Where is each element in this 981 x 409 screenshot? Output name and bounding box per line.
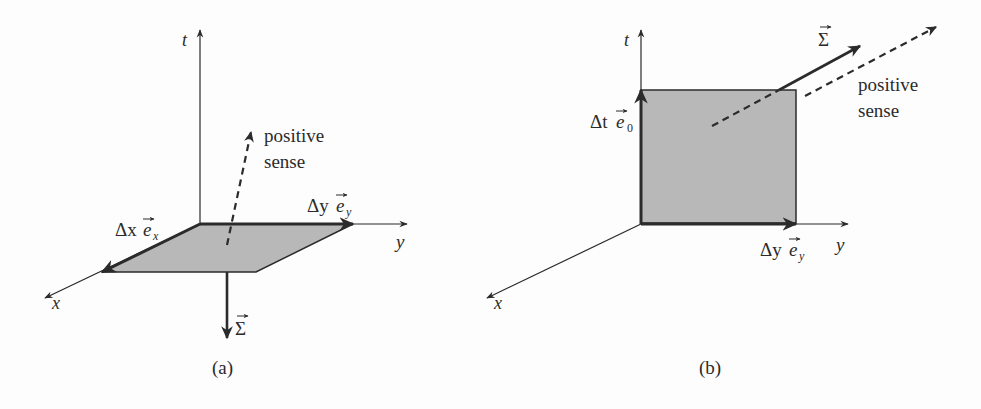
surface-element-a <box>102 224 353 272</box>
svg-text:e: e <box>789 239 797 260</box>
svg-text:e: e <box>616 111 624 132</box>
svg-text:e: e <box>336 195 344 216</box>
svg-text:Δt: Δt <box>590 111 608 132</box>
x-axis-label-b: x <box>493 293 502 313</box>
positive-sense-label-a-line2: sense <box>264 151 305 172</box>
svg-text:Δy: Δy <box>307 195 329 216</box>
positive-sense-label-b-line2: sense <box>858 100 899 121</box>
panel-a: t y x Δx e x Δy e y Σ positive sense (a) <box>45 30 407 379</box>
svg-text:0: 0 <box>627 121 633 135</box>
y-axis-label-b: y <box>834 234 845 255</box>
svg-text:Σ: Σ <box>818 29 829 50</box>
delta-y-label-a: Δy e y <box>307 195 352 219</box>
t-axis-label-a: t <box>182 30 188 50</box>
svg-text:y: y <box>345 205 352 219</box>
panel-b: t y x Δt e 0 Δy e y Σ positive sense (b) <box>487 27 936 379</box>
svg-text:e: e <box>143 219 151 240</box>
delta-x-label-a: Δx e x <box>115 219 159 243</box>
svg-text:Δy: Δy <box>760 239 782 260</box>
figure: t y x Δx e x Δy e y Σ positive sense (a) <box>0 0 981 409</box>
positive-sense-label-b-line1: positive <box>858 74 918 95</box>
svg-text:x: x <box>152 229 159 243</box>
y-axis-label-a: y <box>394 231 405 252</box>
caption-a: (a) <box>212 357 233 379</box>
sigma-label-b: Σ <box>818 27 831 50</box>
diagram-svg: t y x Δx e x Δy e y Σ positive sense (a) <box>0 0 981 409</box>
sigma-label-a: Σ <box>235 316 248 339</box>
caption-b: (b) <box>699 357 721 379</box>
sigma-vector-b <box>779 46 860 90</box>
t-axis-label-b: t <box>624 30 630 50</box>
svg-text:Δx: Δx <box>115 219 137 240</box>
svg-text:y: y <box>798 249 805 263</box>
positive-sense-label-a-line1: positive <box>264 125 324 146</box>
x-axis-b <box>487 224 641 298</box>
svg-text:Σ: Σ <box>235 318 246 339</box>
delta-t-label-b: Δt e 0 <box>590 111 633 135</box>
delta-y-label-b: Δy e y <box>760 239 805 263</box>
surface-element-b <box>641 90 796 223</box>
x-axis-label-a: x <box>51 293 60 313</box>
